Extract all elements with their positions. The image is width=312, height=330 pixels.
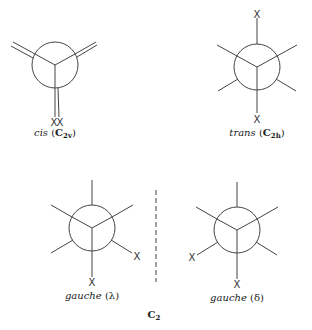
gauche-delta-newman-projection [196,182,278,279]
gauche-lambda-newman-projection [51,180,133,277]
cis-caption: cis (C2v) [34,127,76,140]
trans-x-label-bottom: X [254,114,261,125]
trans-x-label-top: X [254,9,261,20]
c2-group-label: C2 [148,309,161,322]
cis-x-label-2: X [57,117,64,128]
trans-newman-projection [217,18,297,113]
cis-newman-projection [11,42,97,117]
gauche-delta-x-label-bottom: X [234,279,241,290]
gauche-lambda-x-label-right: X [134,251,141,262]
gauche-delta-x-label-left: X [189,252,196,263]
gauche-delta-caption: gauche (δ) [210,292,264,303]
trans-caption: trans (C2h) [229,127,284,140]
newman-projections-diagram [0,0,312,330]
gauche-lambda-x-label-bottom: X [89,277,96,288]
gauche-lambda-caption: gauche (λ) [65,290,119,301]
